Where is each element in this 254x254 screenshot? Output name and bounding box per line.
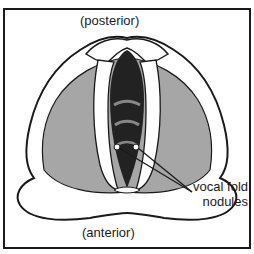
right-nodule bbox=[133, 144, 139, 150]
left-nodule bbox=[114, 144, 120, 150]
nodules-label: vocal fold nodules bbox=[190, 179, 248, 209]
nodules-label-line2: nodules bbox=[190, 194, 248, 209]
posterior-label: (posterior) bbox=[80, 14, 139, 27]
larynx-illustration bbox=[0, 0, 254, 254]
anterior-label: (anterior) bbox=[82, 226, 135, 239]
anterior-commissure bbox=[114, 187, 140, 193]
nodules-label-line1: vocal fold bbox=[190, 179, 248, 194]
